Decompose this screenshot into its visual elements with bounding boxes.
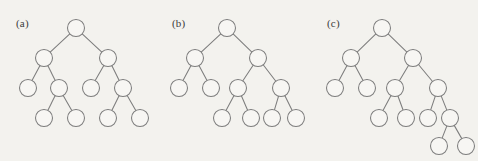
tree-edge <box>201 34 221 52</box>
tree-edge <box>243 65 254 81</box>
tree-edge <box>383 96 391 111</box>
tree-edge <box>199 66 207 81</box>
tree-node <box>288 110 305 127</box>
tree-edge <box>32 66 40 81</box>
tree-node <box>230 80 247 97</box>
tree-node <box>398 110 415 127</box>
tree-node <box>36 110 53 127</box>
panel-label-b: (b) <box>172 17 185 29</box>
tree-edge <box>112 66 119 81</box>
tree-node <box>132 110 149 127</box>
tree-node <box>171 80 188 97</box>
tree-edge <box>183 66 191 81</box>
tree-node <box>100 50 117 67</box>
tree-edge <box>226 96 234 111</box>
tree-edge <box>50 34 70 52</box>
tree-edge <box>441 96 447 110</box>
tree-edge <box>388 34 407 52</box>
tree-edge <box>454 125 462 138</box>
tree-edge <box>285 96 292 111</box>
tree-diagrams-svg <box>0 0 478 161</box>
tree-node <box>371 110 388 127</box>
tree-node <box>219 20 236 37</box>
tree-edge <box>233 34 252 52</box>
tree-node <box>115 80 132 97</box>
tree-edge <box>339 66 347 81</box>
tree-node <box>214 110 231 127</box>
tree-node <box>68 20 85 37</box>
tree-node <box>430 80 447 97</box>
tree-node <box>273 80 290 97</box>
tree-edge <box>95 65 104 80</box>
tree-node <box>387 80 404 97</box>
figure-container: (a) (b) (c) <box>0 0 478 161</box>
tree-node <box>68 110 85 127</box>
tree-node <box>405 50 422 67</box>
tree-node <box>458 138 475 155</box>
tree-node <box>250 50 267 67</box>
tree-edge <box>48 96 55 111</box>
tree-edge <box>241 96 247 110</box>
tree-node <box>83 80 100 97</box>
tree-node <box>327 80 344 97</box>
tree-edge <box>263 65 276 82</box>
tree-edge <box>418 65 432 82</box>
tree-edge <box>398 96 403 110</box>
tree-node <box>359 80 376 97</box>
tree-node <box>203 80 220 97</box>
tree-node <box>187 50 204 67</box>
tree-edge <box>48 66 55 81</box>
tree-c <box>327 20 475 155</box>
tree-edge <box>63 95 72 110</box>
tree-node <box>420 110 437 127</box>
panel-label-c: (c) <box>327 17 340 29</box>
tree-edge <box>355 66 363 81</box>
tree-node <box>431 138 448 155</box>
tree-edge <box>357 34 376 52</box>
tree-a <box>20 20 149 127</box>
tree-edge <box>112 96 119 111</box>
tree-edge <box>274 96 278 110</box>
tree-node <box>343 50 360 67</box>
tree-edge <box>431 96 436 110</box>
tree-edge <box>82 34 102 52</box>
tree-node <box>20 80 37 97</box>
tree-node <box>51 80 68 97</box>
tree-node <box>442 110 459 127</box>
panel-label-a: (a) <box>16 17 29 29</box>
tree-node <box>264 110 281 127</box>
tree-edge <box>127 95 136 110</box>
tree-node <box>243 110 260 127</box>
tree-edge <box>399 65 408 80</box>
tree-node <box>374 20 391 37</box>
tree-node <box>100 110 117 127</box>
tree-b <box>171 20 305 127</box>
tree-node <box>36 50 53 67</box>
tree-edge <box>442 126 447 138</box>
